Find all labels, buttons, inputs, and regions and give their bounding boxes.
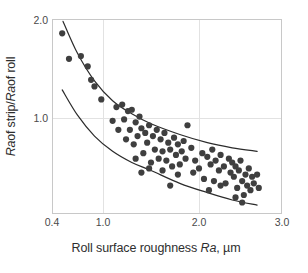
scatter-point <box>209 146 215 152</box>
scatter-point <box>242 172 248 178</box>
y-axis-label-ra-2: Ra <box>4 86 18 102</box>
scatter-point <box>113 104 119 110</box>
scatter-point <box>177 161 183 167</box>
scatter-point <box>123 136 129 142</box>
scatter-point <box>119 101 125 107</box>
scatter-point <box>204 154 210 160</box>
scatter-point <box>188 145 194 151</box>
scatter-point <box>246 165 252 171</box>
scatter-chart-figure: Ra of strip/ Ra of roll Roll surface rou… <box>0 0 308 273</box>
scatter-point <box>175 141 181 147</box>
x-tick-label: 2.0 <box>192 216 207 228</box>
scatter-point <box>154 127 160 133</box>
scatter-point <box>239 199 245 205</box>
scatter-point <box>173 152 179 158</box>
scatter-point <box>121 116 127 122</box>
x-axis-label-post: , µm <box>216 241 240 255</box>
scatter-point <box>254 172 260 178</box>
scatter-point <box>152 146 158 152</box>
y-axis-label-text-2: of roll <box>4 57 18 86</box>
scatter-point <box>190 169 196 175</box>
scatter-point <box>159 148 165 154</box>
scatter-point <box>167 146 173 152</box>
scatter-point <box>148 159 154 165</box>
scatter-point <box>146 122 152 128</box>
scatter-point <box>241 192 247 198</box>
scatter-point <box>150 133 156 139</box>
scatter-point <box>217 182 223 188</box>
scatter-point <box>256 185 262 191</box>
scatter-point <box>216 167 222 173</box>
scatter-point <box>206 187 212 193</box>
scatter-point <box>134 133 140 139</box>
scatter-point <box>78 53 84 59</box>
scatter-point <box>165 140 171 146</box>
scatter-point <box>133 156 139 162</box>
scatter-point <box>138 169 144 175</box>
scatter-point <box>91 83 97 89</box>
y-axis-label-text-1: of strip/ <box>4 102 18 141</box>
scatter-point <box>208 161 214 167</box>
scatter-point <box>161 130 167 136</box>
x-axis-label-pre: Roll surface roughness <box>72 241 201 255</box>
scatter-point <box>129 107 135 113</box>
plot-canvas <box>0 0 308 273</box>
y-axis-label: Ra of strip/ Ra of roll <box>0 0 22 213</box>
scatter-point <box>239 178 245 184</box>
scatter-point <box>159 167 165 173</box>
scatter-point <box>184 122 190 128</box>
scatter-point <box>237 157 243 163</box>
scatter-point <box>140 150 146 156</box>
scatter-point <box>146 165 152 171</box>
scatter-point <box>236 167 242 173</box>
envelope-curves <box>62 21 257 205</box>
scatter-point <box>211 178 217 184</box>
data-points <box>59 30 262 205</box>
scatter-point <box>179 148 185 154</box>
x-tick-label: 3.0 <box>275 216 290 228</box>
y-axis-label-ra-1: Ra <box>4 141 18 157</box>
scatter-point <box>98 96 104 102</box>
x-axis-label: Roll surface roughness Ra, µm <box>40 241 272 255</box>
scatter-point <box>156 156 162 162</box>
scatter-point <box>133 119 139 125</box>
scatter-point <box>144 140 150 146</box>
scatter-point <box>217 152 223 158</box>
scatter-point <box>127 127 133 133</box>
scatter-point <box>85 63 91 69</box>
scatter-point <box>234 185 240 191</box>
scatter-point <box>221 163 227 169</box>
scatter-point <box>192 157 198 163</box>
scatter-point <box>169 163 175 169</box>
y-tick-label: 1.0 <box>28 112 48 124</box>
scatter-point <box>171 135 177 141</box>
x-tick-label: 0.4 <box>45 216 60 228</box>
scatter-point <box>181 138 187 144</box>
scatter-point <box>182 156 188 162</box>
scatter-point <box>167 182 173 188</box>
scatter-point <box>66 56 72 62</box>
scatter-point <box>199 150 205 156</box>
scatter-point <box>196 165 202 171</box>
scatter-point <box>231 174 237 180</box>
scatter-point <box>201 176 207 182</box>
scatter-point <box>251 180 257 186</box>
scatter-point <box>158 136 164 142</box>
scatter-point <box>175 172 181 178</box>
scatter-point <box>213 157 219 163</box>
y-tick-label: 2.0 <box>28 14 48 26</box>
scatter-point <box>247 187 253 193</box>
scatter-point <box>232 194 238 200</box>
x-tick-label: 1.0 <box>96 216 111 228</box>
x-axis-label-ra: Ra <box>201 241 217 255</box>
scatter-point <box>110 118 116 124</box>
scatter-point <box>59 30 65 36</box>
scatter-point <box>136 113 142 119</box>
scatter-point <box>131 141 137 147</box>
scatter-point <box>142 130 148 136</box>
scatter-point <box>115 127 121 133</box>
scatter-point <box>163 157 169 163</box>
scatter-point <box>88 77 94 83</box>
